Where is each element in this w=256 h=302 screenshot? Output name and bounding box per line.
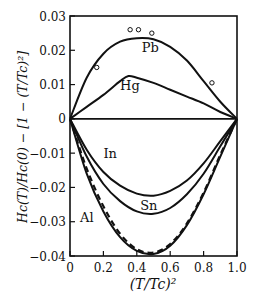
y-tick-label: 0.01	[39, 78, 66, 92]
y-tick-label: −0.03	[29, 215, 66, 229]
y-tick-label: −0.02	[29, 181, 66, 195]
data-point-marker	[136, 28, 140, 32]
series-label-hg: Hg	[120, 78, 140, 93]
x-tick-label: 0.8	[194, 261, 213, 275]
y-tick-label: 0.03	[39, 10, 66, 24]
series-label-al: Al	[79, 210, 94, 225]
series-label-sn: Sn	[140, 198, 158, 213]
y-tick-label: −0.01	[29, 147, 66, 161]
x-tick-label: 0.4	[127, 261, 146, 275]
y-tick-label: 0	[58, 112, 66, 126]
series-label-pb: Pb	[142, 40, 159, 55]
axes: 0.030.020.010−0.01−0.02−0.03−0.0400.20.4…	[29, 10, 246, 276]
x-tick-label: 0	[66, 261, 74, 275]
x-tick-label: 0.2	[94, 261, 113, 275]
data-point-marker	[150, 31, 154, 35]
x-axis-label: (T/Tc)²	[130, 276, 177, 292]
series-in	[70, 119, 237, 196]
series-theory-dashed	[70, 119, 237, 253]
y-tick-label: 0.02	[39, 44, 66, 58]
chart: PbHgInSnAl 0.030.020.010−0.01−0.02−0.03−…	[0, 0, 256, 302]
data-point-marker	[128, 28, 132, 32]
x-tick-label: 1.0	[227, 261, 246, 275]
data-point-marker	[95, 65, 99, 69]
x-tick-label: 0.6	[161, 261, 180, 275]
y-axis-label: Hc(T)/Hc(0) − [1 − (T/Tc)²]	[15, 51, 30, 224]
data-point-marker	[210, 81, 214, 85]
series-label-in: In	[103, 146, 117, 161]
plot-area: PbHgInSnAl	[70, 28, 237, 255]
y-tick-label: −0.04	[29, 250, 66, 264]
